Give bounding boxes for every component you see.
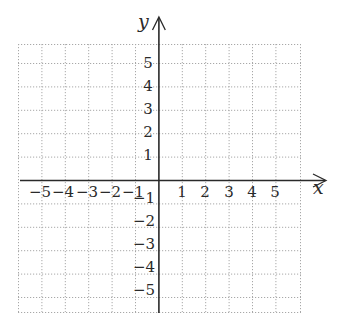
- x-tick-neg-2: −2: [99, 183, 121, 201]
- y-tick-neg-3: −3: [133, 235, 155, 253]
- x-tick-neg-1: −1: [122, 183, 144, 201]
- y-tick-neg-4: −4: [133, 258, 155, 276]
- x-tick-neg-4: −4: [52, 183, 74, 201]
- y-tick-1: 1: [143, 146, 153, 164]
- x-tick-1: 1: [177, 183, 187, 201]
- y-tick-2: 2: [143, 123, 153, 141]
- x-tick-4: 4: [247, 183, 257, 201]
- x-tick-neg-5: −5: [29, 183, 51, 201]
- y-axis-label: y: [137, 10, 149, 32]
- y-tick-labels-positive: 5 4 3 2 1: [143, 54, 153, 164]
- y-tick-3: 3: [143, 100, 153, 118]
- y-tick-4: 4: [143, 77, 153, 95]
- coordinate-plane: y x 5 4 3 2 1 −1 −2 −3 −4 −5 −5 −4 −3 −2…: [0, 0, 337, 330]
- x-tick-3: 3: [224, 183, 234, 201]
- x-tick-2: 2: [200, 183, 210, 201]
- x-tick-neg-3: −3: [76, 183, 98, 201]
- y-tick-neg-5: −5: [133, 281, 155, 299]
- y-tick-labels-negative: −1 −2 −3 −4 −5: [133, 189, 155, 299]
- x-tick-5: 5: [270, 183, 280, 201]
- x-axis-label: x: [313, 176, 324, 198]
- y-tick-neg-2: −2: [133, 212, 155, 230]
- y-tick-5: 5: [143, 54, 153, 72]
- axes: [20, 17, 326, 313]
